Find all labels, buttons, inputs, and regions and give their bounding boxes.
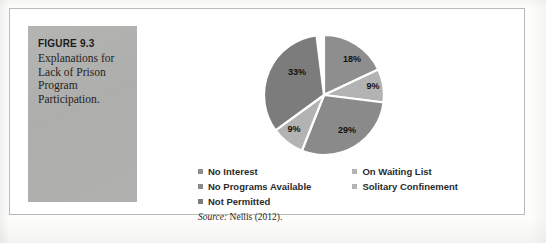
legend-item-label: Not Permitted [208, 196, 270, 207]
legend-swatch-icon [198, 184, 203, 189]
pie-label-18: 18% [343, 54, 361, 64]
legend-item-no-programs-available[interactable]: No Programs Available [198, 179, 348, 194]
legend-item-label: Solitary Confinement [362, 181, 458, 192]
figure-caption-text: Explanations for Lack of Prison Program … [38, 52, 128, 106]
legend-item-label: On Waiting List [362, 166, 431, 177]
figure-scan: FIGURE 9.3 Explanations for Lack of Pris… [0, 0, 546, 243]
pie-chart: 18% 9% 29% 9% 33% [260, 31, 388, 159]
legend-swatch-icon [198, 199, 203, 204]
chart-legend: No Interest No Programs Available Not Pe… [198, 164, 498, 209]
legend-item-no-interest[interactable]: No Interest [198, 164, 348, 179]
pie-label-9-right: 9% [366, 81, 379, 91]
figure-caption-panel: FIGURE 9.3 Explanations for Lack of Pris… [28, 26, 137, 202]
legend-column-right: On Waiting List Solitary Confinement [352, 164, 492, 194]
figure-number: FIGURE 9.3 [38, 38, 128, 50]
legend-item-not-permitted[interactable]: Not Permitted [198, 194, 348, 209]
pie-label-29: 29% [338, 125, 356, 135]
legend-item-solitary-confinement[interactable]: Solitary Confinement [352, 179, 492, 194]
legend-item-on-waiting-list[interactable]: On Waiting List [352, 164, 492, 179]
figure-source: Source: Nellis (2012). [198, 212, 282, 222]
source-citation: Nellis (2012). [230, 212, 283, 222]
legend-swatch-icon [352, 169, 357, 174]
legend-swatch-icon [352, 184, 357, 189]
legend-swatch-icon [198, 169, 203, 174]
legend-column-left: No Interest No Programs Available Not Pe… [198, 164, 348, 209]
legend-item-label: No Interest [208, 166, 258, 177]
pie-label-9-left: 9% [287, 124, 300, 134]
figure-frame: FIGURE 9.3 Explanations for Lack of Pris… [9, 8, 525, 215]
source-label: Source: [198, 212, 227, 222]
pie-chart-region: 18% 9% 29% 9% 33% No Interest [150, 26, 528, 218]
pie-label-33: 33% [288, 67, 306, 77]
pie-chart-svg: 18% 9% 29% 9% 33% [260, 31, 388, 159]
legend-item-label: No Programs Available [208, 181, 311, 192]
